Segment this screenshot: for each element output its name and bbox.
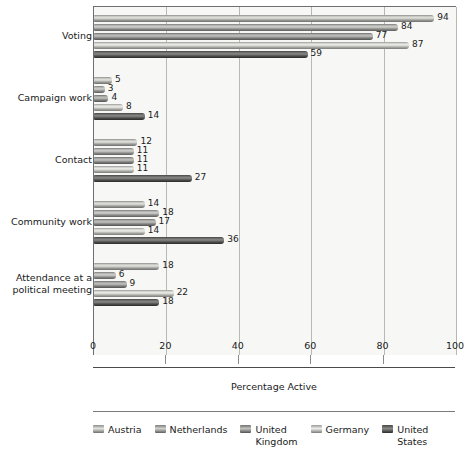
bar — [94, 148, 134, 155]
bar-row: 11 — [94, 148, 456, 155]
bar — [94, 263, 159, 270]
bar — [94, 24, 398, 31]
bar-chart: 9484778759534814121111112714181714361869… — [0, 0, 476, 466]
legend-item[interactable]: Germany — [311, 424, 370, 436]
x-axis-line — [93, 367, 455, 368]
legend-item[interactable]: United States — [382, 424, 428, 447]
bar-row: 59 — [94, 51, 456, 58]
legend: AustriaNetherlandsUnited KingdomGermanyU… — [93, 424, 465, 447]
category-label: Voting — [62, 30, 92, 42]
x-tick-label: 0 — [90, 340, 96, 351]
bar — [94, 139, 137, 146]
bar — [94, 95, 108, 102]
bar-row: 36 — [94, 237, 456, 244]
bar-value-label: 18 — [162, 260, 173, 271]
bar-value-label: 14 — [148, 198, 159, 209]
bar-row: 14 — [94, 201, 456, 208]
bar — [94, 219, 156, 226]
bar-row: 84 — [94, 24, 456, 31]
legend-swatch-icon — [240, 425, 251, 433]
bar-row: 14 — [94, 113, 456, 120]
x-tick-20 — [165, 355, 166, 364]
legend-label: United States — [397, 424, 428, 447]
bar-row: 5 — [94, 77, 456, 84]
x-tick-label: 60 — [304, 340, 316, 351]
x-tick-label: 100 — [446, 340, 464, 351]
bar-row: 3 — [94, 86, 456, 93]
legend-label: United Kingdom — [255, 424, 297, 447]
bar — [94, 228, 145, 235]
bar-value-label: 77 — [376, 30, 387, 41]
bar — [94, 210, 159, 217]
gridline-100 — [456, 7, 457, 355]
bar — [94, 272, 116, 279]
bar-row: 11 — [94, 166, 456, 173]
bar-value-label: 59 — [311, 48, 322, 59]
x-tick-60 — [310, 355, 311, 364]
bar-row: 22 — [94, 290, 456, 297]
legend-item[interactable]: Netherlands — [155, 424, 228, 436]
category-label: Campaign work — [18, 92, 92, 104]
bar-row: 87 — [94, 42, 456, 49]
category-label: Community work — [11, 216, 92, 228]
bar-value-label: 8 — [126, 101, 132, 112]
bar-row: 6 — [94, 272, 456, 279]
bar-row: 11 — [94, 157, 456, 164]
x-tick-80 — [383, 355, 384, 364]
bar — [94, 15, 434, 22]
x-axis-title: Percentage Active — [93, 381, 455, 392]
x-tick-label: 20 — [159, 340, 171, 351]
bar-value-label: 84 — [401, 21, 412, 32]
bar — [94, 104, 123, 111]
legend-swatch-icon — [93, 425, 104, 433]
x-tick-label: 80 — [377, 340, 389, 351]
bar-value-label: 18 — [162, 296, 173, 307]
legend-divider — [93, 411, 455, 412]
bar-group: 9484778759 — [94, 15, 456, 58]
bar — [94, 299, 159, 306]
legend-swatch-icon — [155, 425, 166, 433]
bar-value-label: 6 — [119, 269, 125, 280]
plot-area: 9484778759534814121111112714181714361869… — [93, 6, 456, 355]
category-label: Attendance at a political meeting — [12, 272, 92, 295]
bar — [94, 113, 145, 120]
legend-swatch-icon — [382, 425, 393, 433]
bar — [94, 175, 192, 182]
legend-item[interactable]: Austria — [93, 424, 142, 436]
legend-label: Austria — [108, 424, 142, 436]
bar-row: 18 — [94, 263, 456, 270]
bar — [94, 86, 105, 93]
bar-value-label: 9 — [130, 278, 136, 289]
bar — [94, 33, 373, 40]
bar-value-label: 11 — [137, 163, 148, 174]
bar — [94, 42, 409, 49]
bar-value-label: 22 — [177, 287, 188, 298]
bar-row: 27 — [94, 175, 456, 182]
bar-value-label: 27 — [195, 172, 206, 183]
x-tick-40 — [238, 355, 239, 364]
bar — [94, 51, 308, 58]
bar-value-label: 36 — [227, 234, 238, 245]
bar-value-label: 87 — [412, 39, 423, 50]
bar-value-label: 5 — [115, 74, 121, 85]
bar — [94, 166, 134, 173]
bar — [94, 201, 145, 208]
bar-group: 1418171436 — [94, 201, 456, 244]
bar-value-label: 14 — [148, 225, 159, 236]
bar-value-label: 14 — [148, 110, 159, 121]
bar — [94, 281, 127, 288]
bar-group: 534814 — [94, 77, 456, 120]
legend-swatch-icon — [311, 425, 322, 433]
legend-label: Netherlands — [170, 424, 228, 436]
x-tick-label: 40 — [232, 340, 244, 351]
category-label: Contact — [55, 154, 92, 166]
bar-row: 4 — [94, 95, 456, 102]
legend-item[interactable]: United Kingdom — [240, 424, 297, 447]
bar-row: 12 — [94, 139, 456, 146]
legend-label: Germany — [326, 424, 370, 436]
bar-row: 77 — [94, 33, 456, 40]
bar-row: 14 — [94, 228, 456, 235]
bar-row: 18 — [94, 210, 456, 217]
bar-row: 18 — [94, 299, 456, 306]
bar — [94, 237, 224, 244]
